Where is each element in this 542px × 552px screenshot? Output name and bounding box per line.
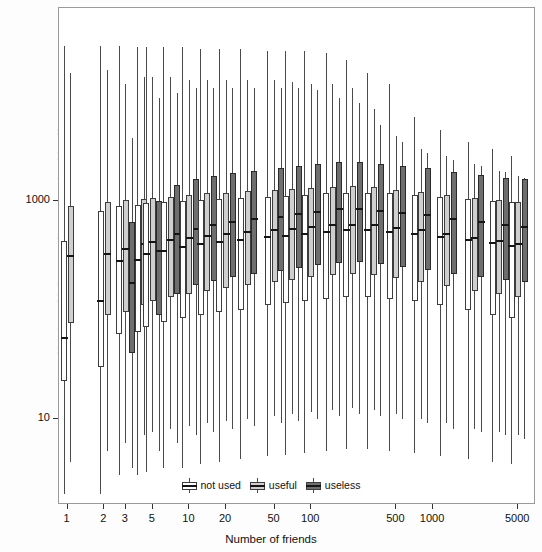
boxplot-median (393, 227, 400, 229)
boxplot-box (116, 206, 122, 334)
boxplot-median (122, 248, 129, 250)
boxplot-whisker (421, 149, 422, 418)
y-tick-label: 1000 (4, 193, 50, 205)
boxplot-box (400, 166, 406, 266)
boxplot-median (343, 229, 350, 231)
x-tick-label: 1000 (412, 512, 452, 524)
boxplot-median (251, 218, 258, 220)
boxplot-box (323, 193, 329, 299)
x-tick-label: 100 (290, 512, 330, 524)
boxplot-box (308, 188, 314, 277)
boxplot-median (116, 260, 123, 262)
boxplot-box (357, 162, 363, 262)
boxplot-box (315, 164, 321, 265)
boxplot-box (168, 197, 174, 298)
boxplot-box (302, 195, 308, 302)
boxplot-box (418, 192, 424, 282)
boxplot-box (245, 191, 251, 285)
boxplot-box (522, 179, 528, 282)
boxplot-median (223, 233, 230, 235)
boxplot-box (98, 211, 104, 367)
boxplot-median (197, 243, 204, 245)
boxplot-box (336, 162, 342, 263)
boxplot-median (377, 210, 384, 212)
plot-area (59, 8, 534, 503)
boxplot-median (237, 239, 244, 241)
boxplot-box (216, 199, 222, 312)
boxplot-median (471, 237, 478, 239)
boxplot-box (378, 164, 384, 264)
legend-item: not used (182, 478, 241, 493)
boxplot-median (336, 208, 343, 210)
x-tick-label: 20 (205, 512, 245, 524)
boxplot-median (411, 233, 418, 235)
boxplot-box (230, 173, 236, 277)
boxplot-median (364, 229, 371, 231)
legend-swatch-boxplot-icon (250, 478, 265, 493)
legend-item: useless (306, 478, 361, 493)
boxplot-box (198, 200, 204, 315)
boxplot-median (289, 228, 296, 230)
boxplot-median (424, 214, 431, 216)
boxplot-box (61, 241, 67, 381)
x-tick-mark (103, 504, 104, 509)
boxplot-median (371, 224, 378, 226)
x-tick-label: 5 (132, 512, 172, 524)
x-tick-label: 50 (254, 512, 294, 524)
boxplot-median (229, 221, 236, 223)
boxplot-box (283, 196, 289, 303)
x-tick-label: 10 (168, 512, 208, 524)
boxplot-median (186, 237, 193, 239)
x-tick-mark (188, 504, 189, 509)
boxplot-box (412, 195, 418, 302)
boxplot-box (444, 195, 450, 287)
boxplot-box (425, 168, 431, 269)
boxplot-median (244, 231, 251, 233)
boxplot-box (509, 202, 515, 317)
boxplot-median (308, 226, 315, 228)
plot-panel (58, 7, 535, 504)
x-tick-mark (432, 504, 433, 509)
chart-legend: not usedusefuluseless (0, 478, 542, 493)
boxplot-median (323, 231, 330, 233)
boxplot-figure: Number of followers of users used to ide… (0, 0, 542, 552)
boxplot-median (204, 235, 211, 237)
boxplot-box (451, 172, 457, 274)
boxplot-box (105, 202, 111, 315)
legend-label: useful (269, 480, 297, 491)
boxplot-median (282, 235, 289, 237)
boxplot-median (399, 212, 406, 214)
boxplot-median (386, 231, 393, 233)
boxplot-box (371, 187, 377, 275)
x-tick-mark (395, 504, 396, 509)
boxplot-box (186, 195, 192, 294)
boxplot-median (67, 255, 74, 257)
boxplot-median (179, 246, 186, 248)
boxplot-median (216, 241, 223, 243)
boxplot-box (465, 199, 471, 310)
boxplot-box (223, 193, 229, 288)
boxplot-box (238, 198, 244, 310)
boxplot-median (314, 211, 321, 213)
legend-label: not used (201, 480, 241, 491)
legend-label: useless (325, 480, 361, 491)
boxplot-median (450, 218, 457, 220)
boxplot-box (472, 198, 478, 291)
boxplot-box (330, 187, 336, 275)
boxplot-box (496, 200, 502, 294)
x-tick-label: 2 (83, 512, 123, 524)
boxplot-box (343, 193, 349, 298)
boxplot-box (150, 198, 156, 302)
legend-swatch-boxplot-icon (182, 478, 197, 493)
legend-item: useful (250, 478, 297, 493)
boxplot-median (437, 236, 444, 238)
boxplot-median (134, 259, 141, 261)
x-tick-mark (125, 504, 126, 509)
boxplot-box (437, 197, 443, 306)
x-tick-mark (517, 504, 518, 509)
boxplot-median (271, 229, 278, 231)
boxplot-median (443, 233, 450, 235)
boxplot-median (489, 242, 496, 244)
boxplot-median (160, 250, 167, 252)
boxplot-box (515, 202, 521, 298)
